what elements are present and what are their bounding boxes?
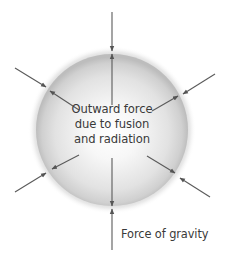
outward-force-line-2: due to fusion bbox=[62, 117, 162, 132]
gravity-arrow-upper-left bbox=[15, 68, 46, 87]
gravity-arrow-upper-right bbox=[183, 74, 215, 94]
gravity-force-label: Force of gravity bbox=[121, 227, 208, 241]
outward-force-label: Outward force due to fusion and radiatio… bbox=[62, 102, 162, 147]
gravity-arrow-lower-left bbox=[15, 173, 46, 192]
gravity-arrow-lower-right bbox=[180, 178, 210, 197]
outward-force-line-1: Outward force bbox=[62, 102, 162, 117]
outward-force-line-3: and radiation bbox=[62, 132, 162, 147]
